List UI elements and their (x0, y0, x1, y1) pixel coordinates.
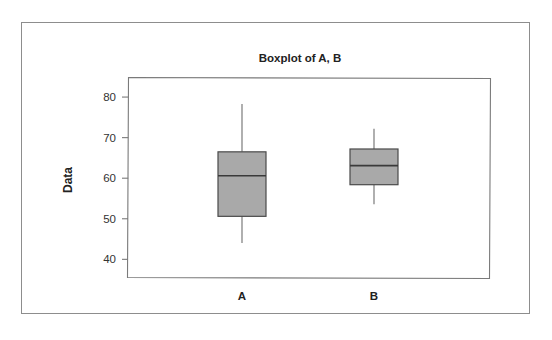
page-root: Boxplot of A, B Data 80 70 60 50 40 (0, 0, 552, 340)
y-tick-label-50: 50 (103, 213, 116, 225)
y-tick-label-60: 60 (103, 172, 116, 184)
y-axis-title: Data (61, 167, 75, 193)
x-category-label-b: B (370, 290, 378, 302)
boxplot-group-b (350, 129, 398, 204)
y-tick-label-80: 80 (103, 91, 116, 103)
x-category-label-a: A (238, 290, 246, 302)
plot-area-frame (128, 78, 491, 279)
box-b (350, 149, 398, 185)
y-tick-label-40: 40 (103, 253, 116, 265)
chart-title: Boxplot of A, B (259, 52, 342, 64)
box-a (218, 152, 266, 217)
boxplot-chart: Boxplot of A, B Data 80 70 60 50 40 (0, 0, 552, 340)
y-tick-label-70: 70 (103, 132, 116, 144)
boxplot-group-a (218, 104, 266, 243)
